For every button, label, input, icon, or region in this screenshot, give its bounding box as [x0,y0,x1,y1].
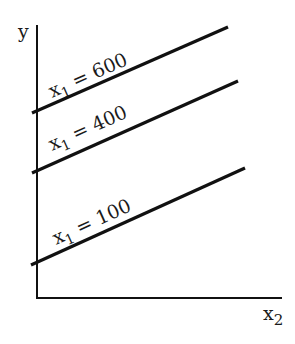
line-x1-100 [31,168,245,265]
svg-text:x2: x2 [263,302,283,329]
label-x1-400: x1 = 400 [45,100,132,158]
y-axis-label: y [17,20,29,42]
x-axis-label-sub: 2 [274,311,284,329]
x-axis-label: x2 [263,302,283,329]
x-axis-label-main: x [263,302,274,324]
diagram-canvas: y x2 x1 = 600 x1 = 400 x1 = 100 [0,0,295,344]
